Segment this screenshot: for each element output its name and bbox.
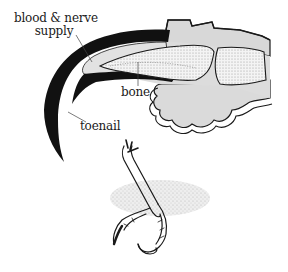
label-blood-nerve-line2: supply [14, 25, 94, 38]
label-blood-nerve-supply: blood & nerve supply [14, 12, 94, 38]
middle-bone [215, 47, 266, 85]
foot-shadow [110, 180, 210, 216]
label-toenail: toenail [80, 120, 120, 133]
toenail-cross-section-diagram [0, 0, 288, 272]
label-bone: bone [121, 86, 150, 99]
